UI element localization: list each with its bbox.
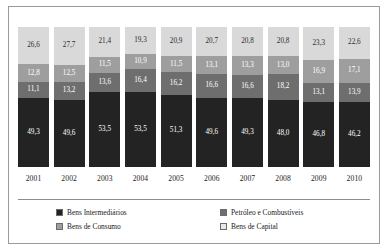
- bar-segment-bens-intermediarios: 49,3: [232, 98, 263, 167]
- legend-label: Bens de Consumo: [67, 222, 121, 231]
- bar-segment-petroleo-e-combustiveis: 16,4: [125, 69, 156, 92]
- bar-segment-bens-de-capital: 22,6: [339, 27, 370, 59]
- x-axis-tick-label: 2009: [311, 174, 327, 183]
- bar-segment-value: 17,1: [348, 67, 361, 74]
- bar-segment-value: 53,5: [99, 126, 112, 133]
- bar-segment-value: 27,7: [63, 42, 76, 49]
- bar-segment-value: 13,2: [63, 87, 76, 94]
- stacked-bar[interactable]: 21,411,513,653,5: [89, 27, 120, 167]
- bar-segment-bens-de-capital: 21,4: [89, 27, 120, 57]
- bar-segment-value: 20,9: [170, 38, 183, 45]
- bar-segment-value: 13,1: [312, 89, 325, 96]
- bar-segment-petroleo-e-combustiveis: 16,2: [161, 72, 192, 95]
- bar-segment-value: 18,2: [277, 83, 290, 90]
- bar-segment-value: 53,5: [134, 126, 147, 133]
- bar-group: 26,612,811,149,32001: [18, 27, 49, 183]
- bar-segment-bens-de-consumo: 11,5: [89, 57, 120, 73]
- x-axis-tick-label: 2006: [204, 174, 220, 183]
- bar-segment-bens-de-consumo: 13,3: [232, 56, 263, 75]
- bar-segment-value: 12,5: [63, 70, 76, 77]
- legend-label: Petróleo e Combustíveis: [231, 208, 303, 217]
- bar-segment-bens-de-consumo: 12,8: [18, 64, 49, 82]
- stacked-bar[interactable]: 27,712,513,249,6: [54, 27, 85, 167]
- stacked-bar[interactable]: 20,813,316,649,3: [232, 27, 263, 167]
- x-axis-tick-label: 2008: [275, 174, 291, 183]
- bar-group: 23,316,913,146,82009: [303, 27, 334, 183]
- bar-group: 20,911,516,251,32005: [161, 27, 192, 183]
- stacked-bar[interactable]: 22,617,113,946,2: [339, 27, 370, 167]
- bar-segment-bens-intermediarios: 46,2: [339, 102, 370, 167]
- stacked-bar[interactable]: 20,713,116,649,6: [196, 27, 227, 167]
- bar-segment-bens-intermediarios: 46,8: [303, 102, 334, 167]
- legend-item-petroleo-e-combustiveis[interactable]: Petróleo e Combustíveis: [194, 208, 379, 217]
- bar-segment-value: 46,2: [348, 131, 361, 138]
- bar-segment-value: 11,1: [27, 86, 39, 93]
- legend-item-bens-de-capital[interactable]: Bens de Capital: [194, 222, 379, 231]
- bar-group: 20,713,116,649,62006: [196, 27, 227, 183]
- bar-segment-petroleo-e-combustiveis: 16,6: [232, 75, 263, 98]
- bar-segment-value: 20,8: [241, 38, 254, 45]
- x-axis-tick-label: 2007: [240, 174, 256, 183]
- bar-segment-bens-de-capital: 20,8: [232, 27, 263, 56]
- bar-segment-value: 19,3: [134, 37, 147, 44]
- bar-group: 20,813,018,248,02008: [268, 27, 299, 183]
- bar-segment-bens-de-consumo: 12,5: [54, 65, 85, 82]
- bar-segment-value: 49,6: [205, 129, 218, 136]
- bar-segment-bens-intermediarios: 49,3: [18, 98, 49, 167]
- stacked-bar[interactable]: 23,316,913,146,8: [303, 27, 334, 167]
- bar-segment-value: 13,6: [99, 79, 112, 86]
- bar-segment-bens-de-capital: 23,3: [303, 27, 334, 60]
- bar-segment-value: 13,3: [241, 62, 254, 69]
- bar-group: 22,617,113,946,22010: [339, 27, 370, 183]
- bar-segment-value: 46,8: [312, 131, 325, 138]
- stacked-bar[interactable]: 26,612,811,149,3: [18, 27, 49, 167]
- legend-label: Bens Intermediários: [67, 208, 127, 217]
- stacked-bar[interactable]: 20,911,516,251,3: [161, 27, 192, 167]
- bar-segment-value: 16,6: [241, 83, 254, 90]
- bar-segment-value: 21,4: [99, 38, 112, 45]
- bar-segment-value: 11,5: [99, 61, 111, 68]
- bar-segment-value: 16,6: [205, 82, 218, 89]
- bar-segment-value: 13,9: [348, 89, 361, 96]
- bar-segment-bens-de-capital: 27,7: [54, 27, 85, 65]
- bar-segment-bens-intermediarios: 51,3: [161, 95, 192, 167]
- legend-swatch-icon: [220, 209, 227, 216]
- legend-swatch-icon: [56, 209, 63, 216]
- stacked-bar[interactable]: 20,813,018,248,0: [268, 27, 299, 167]
- bar-segment-value: 22,6: [348, 39, 361, 46]
- bar-segment-petroleo-e-combustiveis: 11,1: [18, 82, 49, 98]
- legend-label: Bens de Capital: [231, 222, 278, 231]
- bar-segment-bens-de-capital: 20,9: [161, 27, 192, 56]
- bar-segment-value: 12,8: [27, 70, 40, 77]
- bar-segment-bens-intermediarios: 48,0: [268, 100, 299, 167]
- bar-segment-bens-de-consumo: 13,1: [196, 56, 227, 74]
- legend-item-bens-intermediarios[interactable]: Bens Intermediários: [9, 208, 194, 217]
- bar-segment-bens-de-capital: 26,6: [18, 27, 49, 64]
- bar-segment-value: 16,2: [170, 80, 183, 87]
- legend-item-bens-de-consumo[interactable]: Bens de Consumo: [9, 222, 194, 231]
- bar-segment-value: 23,3: [312, 40, 325, 47]
- x-axis-tick-label: 2003: [97, 174, 113, 183]
- x-axis-tick-label: 2002: [61, 174, 77, 183]
- bar-segment-value: 26,6: [27, 42, 40, 49]
- bar-segment-value: 49,3: [241, 129, 254, 136]
- axis-separator-line: [18, 199, 370, 200]
- bar-segment-value: 49,3: [27, 129, 40, 136]
- bar-segment-value: 16,9: [312, 68, 325, 75]
- stacked-bar[interactable]: 19,310,916,453,5: [125, 27, 156, 167]
- bar-segment-value: 13,1: [205, 62, 218, 69]
- bar-segment-bens-de-capital: 19,3: [125, 27, 156, 54]
- bar-segment-value: 10,9: [134, 58, 147, 65]
- bar-segment-petroleo-e-combustiveis: 13,2: [54, 82, 85, 100]
- legend-swatch-icon: [56, 223, 63, 230]
- bar-group: 27,712,513,249,62002: [54, 27, 85, 183]
- x-axis-tick-label: 2010: [347, 174, 363, 183]
- bar-segment-bens-de-consumo: 13,0: [268, 56, 299, 74]
- bar-segment-bens-intermediarios: 49,6: [54, 100, 85, 167]
- bar-group: 20,813,316,649,32007: [232, 27, 263, 183]
- bar-segment-petroleo-e-combustiveis: 16,6: [196, 74, 227, 97]
- bar-segment-petroleo-e-combustiveis: 13,9: [339, 83, 370, 102]
- bar-segment-bens-intermediarios: 53,5: [89, 92, 120, 167]
- bar-segment-value: 51,3: [170, 127, 183, 134]
- bar-group: 19,310,916,453,52004: [125, 27, 156, 183]
